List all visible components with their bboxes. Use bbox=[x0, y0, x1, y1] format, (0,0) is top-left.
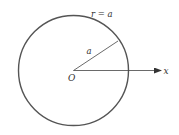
circle-label: r = a bbox=[91, 9, 113, 19]
diagram-canvas: r = a a O x bbox=[0, 0, 179, 135]
diagram-svg: r = a a O x bbox=[0, 0, 179, 135]
radius-line bbox=[74, 41, 119, 71]
axis-label: x bbox=[164, 66, 169, 76]
origin-label: O bbox=[68, 73, 76, 83]
radius-label: a bbox=[87, 46, 92, 56]
